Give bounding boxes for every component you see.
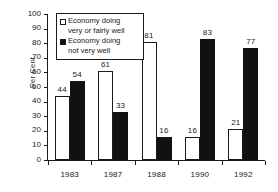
bar-value-label: 81 bbox=[144, 31, 153, 40]
bar-chart: Per Cent 0102030405060708090100 19831987… bbox=[0, 0, 278, 192]
y-axis-tick: 0 bbox=[0, 160, 48, 161]
bar-1987-series-1: 61 bbox=[98, 71, 113, 160]
y-axis-tick-label: 60 bbox=[32, 67, 41, 76]
x-axis-tick-mark bbox=[135, 161, 136, 165]
y-axis-tick-label: 30 bbox=[32, 111, 41, 120]
x-axis-tick-mark bbox=[265, 161, 266, 165]
bar-1983-series-1: 44 bbox=[55, 96, 70, 160]
x-axis-tick-mark bbox=[178, 161, 179, 165]
y-axis-tick: 90 bbox=[0, 29, 48, 30]
y-axis-tick: 50 bbox=[0, 87, 48, 88]
x-axis-tick-label: 1988 bbox=[135, 170, 179, 179]
bar-1990-series-2: 83 bbox=[200, 39, 215, 160]
bar-1992-series-2: 77 bbox=[243, 48, 258, 160]
legend-item-not-very-well[interactable]: Economy doingnot very well bbox=[60, 36, 140, 55]
bar-1988-series-2: 16 bbox=[157, 137, 172, 160]
y-axis-tick: 10 bbox=[0, 145, 48, 146]
y-axis-tick-label: 70 bbox=[32, 52, 41, 61]
x-axis-tick-label: 1987 bbox=[91, 170, 135, 179]
x-axis-tick-label: 1990 bbox=[178, 170, 222, 179]
bar-1983-series-2: 54 bbox=[70, 81, 85, 160]
y-axis-tick: 80 bbox=[0, 43, 48, 44]
bar-value-label: 16 bbox=[159, 126, 168, 135]
legend-item-label: Economy doingnot very well bbox=[68, 36, 120, 55]
legend-swatch-dark-icon bbox=[60, 39, 66, 45]
y-axis-tick: 100 bbox=[0, 14, 48, 15]
y-axis-tick-label: 10 bbox=[32, 140, 41, 149]
bar-value-label: 61 bbox=[101, 60, 110, 69]
bar-value-label: 33 bbox=[116, 101, 125, 110]
legend-item-label: Economy doingvery or fairly well bbox=[68, 16, 125, 35]
y-axis-tick-label: 40 bbox=[32, 96, 41, 105]
chart-legend: Economy doingvery or fairly well Economy… bbox=[56, 13, 144, 60]
x-axis-tick-mark bbox=[222, 161, 223, 165]
y-axis-tick-label: 100 bbox=[28, 9, 41, 18]
bar-1990-series-1: 16 bbox=[185, 137, 200, 160]
bar-value-label: 21 bbox=[231, 118, 240, 127]
x-axis-tick-mark bbox=[48, 161, 49, 165]
legend-item-very-or-fairly-well[interactable]: Economy doingvery or fairly well bbox=[60, 16, 140, 35]
bar-1992-series-1: 21 bbox=[228, 129, 243, 160]
y-axis-tick-label: 90 bbox=[32, 23, 41, 32]
y-axis-tick: 40 bbox=[0, 102, 48, 103]
y-axis-tick: 60 bbox=[0, 72, 48, 73]
x-axis-tick-label: 1983 bbox=[48, 170, 92, 179]
y-axis-tick-label: 0 bbox=[37, 155, 41, 164]
y-axis-tick: 70 bbox=[0, 58, 48, 59]
bar-value-label: 16 bbox=[188, 126, 197, 135]
bar-value-label: 54 bbox=[73, 70, 82, 79]
bar-value-label: 77 bbox=[246, 37, 255, 46]
x-axis-tick-label: 1992 bbox=[221, 170, 265, 179]
y-axis-tick: 30 bbox=[0, 116, 48, 117]
x-axis-tick-mark bbox=[91, 161, 92, 165]
bar-value-label: 83 bbox=[203, 28, 212, 37]
y-axis-tick-label: 20 bbox=[32, 125, 41, 134]
bar-1987-series-2: 33 bbox=[113, 112, 128, 160]
y-axis-tick-label: 50 bbox=[32, 82, 41, 91]
legend-swatch-light-icon bbox=[60, 19, 66, 25]
bar-value-label: 44 bbox=[58, 85, 67, 94]
y-axis-tick-label: 80 bbox=[32, 38, 41, 47]
x-axis-line bbox=[47, 160, 265, 161]
y-axis-tick: 20 bbox=[0, 131, 48, 132]
